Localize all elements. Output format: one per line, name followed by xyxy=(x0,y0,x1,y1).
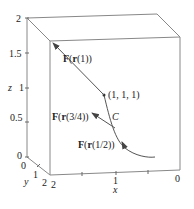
point-label: (1, 1, 1) xyxy=(108,89,140,101)
label-f-r12: F(r(1/2)) xyxy=(78,139,115,151)
x-tick-0: 0 xyxy=(175,173,180,184)
z-tick-1-5: 1.5 xyxy=(9,48,22,59)
x-tick-2: 2 xyxy=(51,179,56,190)
label-f-r1: F(r(1)) xyxy=(63,53,92,65)
vector-f-r1 xyxy=(53,43,104,95)
curve-label: C xyxy=(112,111,119,122)
y-axis-label: y xyxy=(23,176,29,187)
z-tick-0-5: 0.5 xyxy=(10,112,23,123)
z-axis-label: z xyxy=(7,82,12,93)
z-tick-1: 1 xyxy=(19,82,24,93)
y-tick-0: 0 xyxy=(21,160,26,171)
y-tick-2: 2 xyxy=(42,177,47,188)
y-tick-1: 1 xyxy=(33,169,38,180)
x-axis-label: x xyxy=(112,184,118,195)
label-f-r34: F(r(3/4)) xyxy=(52,111,89,123)
z-tick-2: 2 xyxy=(16,13,21,24)
diagram-canvas: 2 1.5 z 1 0.5 0 0 1 y 2 2 1 x 0 F(r(1)) … xyxy=(0,0,194,209)
